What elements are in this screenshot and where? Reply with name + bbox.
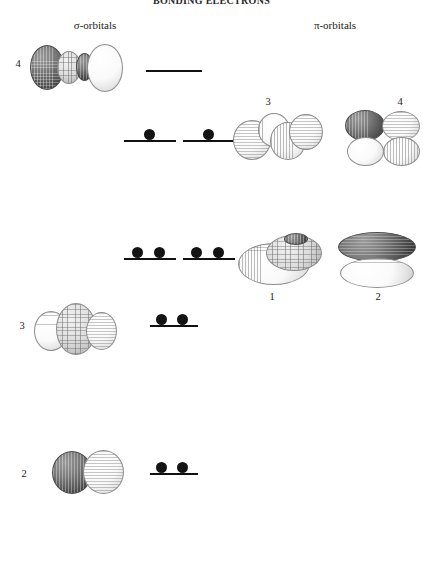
sigma-orbital-3-label: 3 [12,320,32,331]
pi-orbital-1-label: 1 [262,291,282,302]
sigma-orbital-4-label: 4 [8,58,28,69]
sigma-star-4-energy-level [146,65,202,79]
electron-dot [177,314,188,325]
level-line [124,140,176,142]
level-line [183,258,235,260]
sigma-orbital-3-render [34,303,118,357]
pi-orbital-4-label: 4 [390,96,410,107]
diagram-title: BONDING ELECTRONS [0,0,423,4]
pi-orbital-3-render [232,112,324,164]
molecular-orbital-diagram: BONDING ELECTRONS σ-orbitals π-orbitals … [0,0,423,562]
pi-orbital-3-label: 3 [258,96,278,107]
pi-orbital-2-label: 2 [368,291,388,302]
electron-dot [156,462,167,473]
level-line [150,325,198,327]
level-line [146,70,202,72]
sigma-2-energy-level [150,461,198,477]
electron-dot [154,247,165,258]
pi-column-header: π-orbitals [270,19,400,31]
sigma-orbital-2-render [52,450,124,496]
pi-orbital-2-render [338,232,418,290]
pi-level-a [124,246,176,262]
electron-dot [213,247,224,258]
electron-dot [132,247,143,258]
pi-level-b [183,246,235,262]
electron-dot [191,247,202,258]
sigma-orbital-2-label: 2 [14,468,34,479]
electron-dot [156,314,167,325]
pi-star-level-a [124,128,176,144]
level-line [124,258,176,260]
pi-orbital-1-render [238,233,326,289]
electron-dot [203,129,214,140]
sigma-column-header: σ-orbitals [30,19,160,31]
sigma-orbital-4-render [30,44,122,94]
electron-dot [144,129,155,140]
electron-dot [177,462,188,473]
sigma-3-energy-level [150,313,198,329]
level-line [150,473,198,475]
pi-star-level-b [183,128,235,144]
pi-orbital-4-render [345,110,423,168]
level-line [183,140,235,142]
